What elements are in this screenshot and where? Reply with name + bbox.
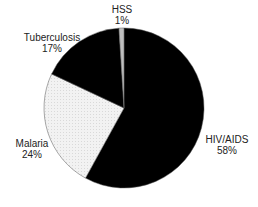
label-hss: HSS 1%	[108, 4, 136, 26]
label-hiv-aids-pct: 58%	[202, 145, 252, 156]
label-tuberculosis-name: Tuberculosis	[22, 32, 82, 43]
label-hiv-aids-name: HIV/AIDS	[202, 134, 252, 145]
label-tuberculosis-pct: 17%	[22, 43, 82, 54]
label-malaria-pct: 24%	[10, 149, 54, 160]
label-hiv-aids: HIV/AIDS 58%	[202, 134, 252, 156]
label-malaria-name: Malaria	[10, 138, 54, 149]
label-hss-name: HSS	[108, 4, 136, 15]
label-hss-pct: 1%	[108, 15, 136, 26]
label-malaria: Malaria 24%	[10, 138, 54, 160]
label-tuberculosis: Tuberculosis 17%	[22, 32, 82, 54]
